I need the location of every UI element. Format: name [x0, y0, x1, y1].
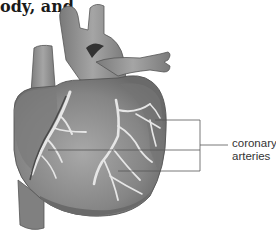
label-line-1: coronary [232, 137, 276, 150]
label-line-2: arteries [232, 150, 276, 163]
coronary-arteries-label: coronary arteries [232, 137, 276, 163]
heart-diagram [0, 0, 276, 238]
